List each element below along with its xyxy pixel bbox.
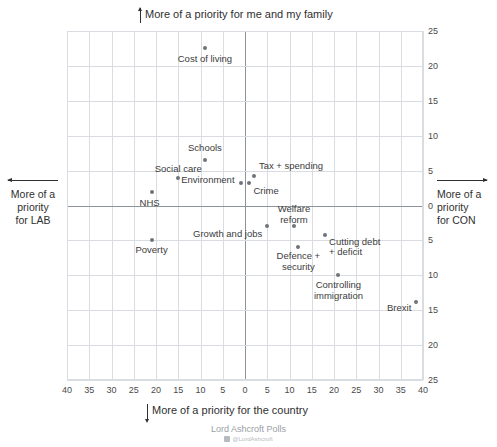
x-axis-tick-label: 30 xyxy=(106,385,116,395)
plot-border xyxy=(67,31,68,380)
gridline-horizontal xyxy=(67,345,423,346)
plot-border xyxy=(67,379,423,380)
x-axis-tick-label: 5 xyxy=(220,385,225,395)
caption-line: More of a xyxy=(2,188,64,201)
data-point[interactable] xyxy=(414,300,418,304)
caption-line: More of a xyxy=(437,188,495,201)
data-point[interactable] xyxy=(150,238,154,242)
x-axis-tick-label: 15 xyxy=(307,385,317,395)
y-axis-tick-label: 5 xyxy=(428,235,433,245)
data-point[interactable] xyxy=(247,181,251,185)
x-axis-tick-label: 40 xyxy=(62,385,72,395)
y-axis-tick-label: 5 xyxy=(428,166,433,176)
data-point[interactable] xyxy=(336,273,340,277)
data-point[interactable] xyxy=(176,176,180,180)
data-point-label: Cutting debt + deficit xyxy=(329,237,380,258)
data-point[interactable] xyxy=(203,46,207,50)
y-axis-tick-label: 15 xyxy=(428,96,438,106)
social-handle: @LordAshcroft xyxy=(0,436,497,442)
data-point-label: Defence + security xyxy=(277,251,321,272)
x-axis-line xyxy=(67,206,423,207)
x-axis-tick-label: 20 xyxy=(329,385,339,395)
data-point-label: Schools xyxy=(188,143,222,154)
plot-border xyxy=(67,31,423,32)
data-point-label: Controlling immigration xyxy=(314,280,363,301)
x-axis-tick-label: 0 xyxy=(242,385,247,395)
gridline-horizontal xyxy=(67,171,423,172)
right-arrow-icon xyxy=(437,180,487,181)
data-point-label: Crime xyxy=(253,186,278,197)
caption-line: priority xyxy=(2,201,64,214)
x-axis-tick-label: 20 xyxy=(151,385,161,395)
y-axis-tick-label: 10 xyxy=(428,270,438,280)
data-point-label: NHS xyxy=(140,198,160,209)
plot-area xyxy=(67,31,423,380)
down-arrow-icon xyxy=(147,404,148,419)
left-arrow-icon xyxy=(8,180,58,181)
x-axis-tick-label: 40 xyxy=(418,385,428,395)
caption-line: priority xyxy=(437,201,495,214)
gridline-horizontal xyxy=(67,275,423,276)
data-point-label: Social care xyxy=(155,164,202,175)
data-point[interactable] xyxy=(203,158,207,162)
y-axis-tick-label: 25 xyxy=(428,375,438,385)
x-axis-tick-label: 5 xyxy=(265,385,270,395)
y-axis-tick-label: 10 xyxy=(428,131,438,141)
chart-root: More of a priority for me and my family … xyxy=(0,0,497,447)
x-axis-tick-label: 10 xyxy=(284,385,294,395)
data-point[interactable] xyxy=(150,190,154,194)
data-point-label: Growth and jobs xyxy=(193,229,262,240)
gridline-horizontal xyxy=(67,66,423,67)
y-axis-tick-label: 25 xyxy=(428,26,438,36)
data-point[interactable] xyxy=(323,233,327,237)
data-point[interactable] xyxy=(296,245,300,249)
caption-line: for CON xyxy=(437,214,495,227)
gridline-vertical xyxy=(423,31,424,380)
right-axis-caption: More of apriorityfor CON xyxy=(437,188,495,227)
data-point-label: Poverty xyxy=(135,245,167,256)
left-axis-caption: More of apriorityfor LAB xyxy=(2,188,64,227)
y-axis-tick-label: 15 xyxy=(428,305,438,315)
y-axis-tick-label: 20 xyxy=(428,61,438,71)
gridline-horizontal xyxy=(67,101,423,102)
bottom-axis-caption: More of a priority for the country xyxy=(152,404,308,416)
data-point-label: Brexit xyxy=(387,303,411,314)
top-axis-caption: More of a priority for me and my family xyxy=(145,8,333,20)
x-axis-tick-label: 10 xyxy=(195,385,205,395)
data-point[interactable] xyxy=(239,181,243,185)
data-point-label: Environment xyxy=(181,175,234,186)
data-point-label: Cost of living xyxy=(178,54,232,65)
twitter-icon xyxy=(224,436,230,442)
x-axis-tick-label: 30 xyxy=(373,385,383,395)
gridline-horizontal xyxy=(67,136,423,137)
data-point[interactable] xyxy=(252,174,256,178)
x-axis-tick-label: 15 xyxy=(173,385,183,395)
source-credit: Lord Ashcroft Polls xyxy=(0,424,497,434)
gridline-horizontal xyxy=(67,380,423,381)
x-axis-tick-label: 25 xyxy=(351,385,361,395)
x-axis-tick-label: 35 xyxy=(84,385,94,395)
x-axis-tick-label: 35 xyxy=(396,385,406,395)
y-axis-tick-label: 20 xyxy=(428,340,438,350)
x-axis-tick-label: 25 xyxy=(129,385,139,395)
data-point[interactable] xyxy=(265,224,269,228)
social-handle-text: @LordAshcroft xyxy=(232,436,272,442)
y-axis-tick-label: 0 xyxy=(428,201,433,211)
data-point-label: Tax + spending xyxy=(259,161,323,172)
caption-line: for LAB xyxy=(2,214,64,227)
data-point-label: Welfare reform xyxy=(278,204,311,225)
up-arrow-icon xyxy=(140,8,141,23)
gridline-horizontal xyxy=(67,310,423,311)
plot-border xyxy=(422,31,423,380)
